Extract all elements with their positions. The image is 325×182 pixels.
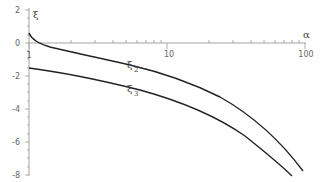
x-tick-label: 1 — [26, 51, 31, 60]
x-tick-label: 100 — [298, 50, 313, 59]
x-ticks — [29, 40, 305, 49]
curve-label-xi3: ξ — [127, 83, 133, 94]
y-tick-label: 0 — [15, 39, 20, 48]
y-axis-label: ξ — [33, 9, 39, 20]
chart: 2 0 -2 -4 -6 -8 1 10 100 ξ α ξ 2 ξ 3 — [0, 0, 325, 182]
x-tick-label: 10 — [164, 50, 174, 59]
y-tick-label: -8 — [12, 171, 20, 180]
y-tick-label: 2 — [15, 6, 20, 15]
curve-label-xi2-sub: 2 — [134, 66, 138, 74]
y-tick-label: -6 — [12, 138, 20, 147]
curve-label-xi2: ξ — [127, 59, 133, 70]
y-tick-label: -2 — [12, 72, 20, 81]
x-axis-label: α — [303, 29, 310, 40]
curve-label-xi3-sub: 3 — [134, 90, 138, 98]
curve-xi3 — [29, 68, 292, 176]
y-tick-label: -4 — [12, 105, 20, 114]
y-ticks — [25, 10, 29, 175]
